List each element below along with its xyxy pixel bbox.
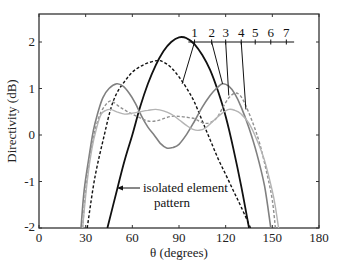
annotation-text-line1: isolated element xyxy=(143,180,228,195)
y-axis-title: Directivity (dB) xyxy=(4,79,19,162)
axis-ticks: 0306090120150180-2-1012 xyxy=(24,14,329,245)
curve-label-5: 5 xyxy=(252,25,259,40)
y-tick-label: 1 xyxy=(29,81,36,96)
curve-label-3: 3 xyxy=(222,25,229,40)
directivity-chart: 1234567 0306090120150180-2-1012 θ (degre… xyxy=(0,0,339,264)
y-tick-label: 0 xyxy=(29,127,36,142)
curve-label-6: 6 xyxy=(268,25,275,40)
isolated-element-annotation: isolated element pattern xyxy=(117,180,228,210)
y-tick-label: -1 xyxy=(24,174,35,189)
y-tick-label: -2 xyxy=(24,219,35,234)
x-tick-label: 120 xyxy=(216,230,236,245)
curve-label-1: 1 xyxy=(191,25,198,40)
x-tick-label: 60 xyxy=(126,230,139,245)
x-tick-label: 30 xyxy=(79,230,92,245)
leader-line-4 xyxy=(241,42,246,109)
leader-line-3 xyxy=(226,42,229,95)
curve-number-labels: 1234567 xyxy=(182,25,294,109)
x-tick-label: 0 xyxy=(36,230,43,245)
curve-label-7: 7 xyxy=(283,25,290,40)
curve-label-4: 4 xyxy=(238,25,245,40)
x-axis-title: θ (degrees) xyxy=(150,245,208,260)
leader-line-1 xyxy=(182,42,194,84)
x-tick-label: 90 xyxy=(173,230,186,245)
x-tick-label: 150 xyxy=(263,230,283,245)
x-tick-label: 180 xyxy=(309,230,329,245)
y-tick-label: 2 xyxy=(29,34,36,49)
annotation-text-line2: pattern xyxy=(154,195,191,210)
curve-label-2: 2 xyxy=(208,25,215,40)
